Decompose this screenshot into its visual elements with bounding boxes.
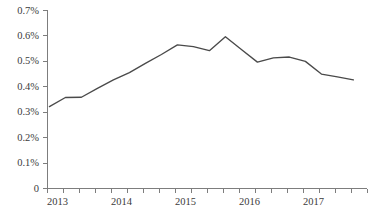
x-axis: 20132014201520162017 (47, 189, 368, 208)
data-series (49, 37, 353, 107)
y-tick-label: 0.5% (17, 55, 39, 66)
y-tick-label: 0.7% (17, 5, 39, 16)
y-tick-label: 0.6% (17, 30, 39, 41)
series-line (49, 37, 353, 107)
y-tick-label: 0.3% (17, 106, 39, 117)
y-tick-label: 0.1% (17, 157, 39, 168)
y-tick-label: 0 (34, 183, 39, 194)
x-tick-label: 2014 (111, 196, 133, 207)
y-tick-label: 0.4% (17, 81, 39, 92)
x-tick-label: 2013 (47, 196, 68, 207)
line-chart: 0.7%0.6%0.5%0.4%0.3%0.2%0.1%0 2013201420… (0, 0, 378, 224)
x-tick-label: 2017 (303, 196, 324, 207)
x-tick-label: 2015 (175, 196, 196, 207)
x-tick-label: 2016 (239, 196, 260, 207)
chart-canvas: 0.7%0.6%0.5%0.4%0.3%0.2%0.1%0 2013201420… (0, 0, 378, 224)
y-tick-label: 0.2% (17, 132, 39, 143)
y-axis: 0.7%0.6%0.5%0.4%0.3%0.2%0.1%0 (17, 5, 47, 194)
